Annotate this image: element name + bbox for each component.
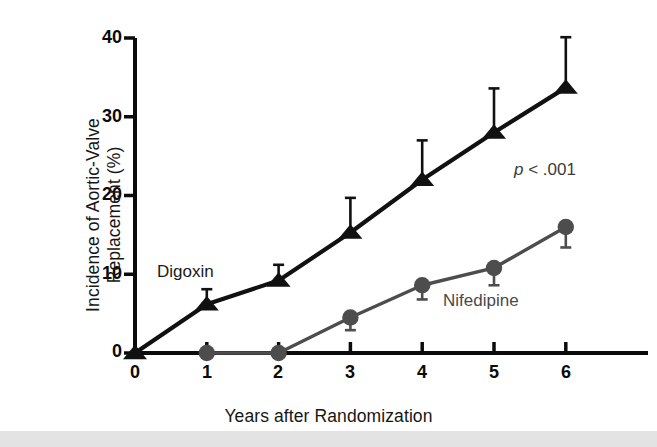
p-value-annotation: p < .001 bbox=[514, 160, 576, 180]
y-axis-title-container: Incidence of Aortic-Valve Replacement (%… bbox=[82, 50, 126, 380]
marker-circle-6 bbox=[558, 219, 574, 235]
x-tick-label-2: 2 bbox=[263, 362, 293, 383]
series-label-digoxin: Digoxin bbox=[157, 262, 214, 282]
x-tick-label-4: 4 bbox=[407, 362, 437, 383]
y-tick-label-40: 40 bbox=[78, 27, 122, 48]
p-value-rest: < .001 bbox=[523, 160, 575, 179]
series-label-nifedipine: Nifedipine bbox=[443, 291, 519, 311]
marker-circle-5 bbox=[486, 260, 502, 276]
x-tick-label-1: 1 bbox=[192, 362, 222, 383]
x-tick-label-5: 5 bbox=[479, 362, 509, 383]
chart-figure: 0 10 20 30 40 0 1 2 3 4 5 6 Years after … bbox=[0, 0, 657, 447]
bottom-gray-strip bbox=[0, 431, 657, 447]
marker-circle-1 bbox=[199, 345, 215, 361]
marker-triangle-6 bbox=[554, 79, 578, 94]
y-axis-title: Incidence of Aortic-Valve Replacement (%… bbox=[83, 65, 125, 365]
marker-circle-3 bbox=[342, 309, 358, 325]
marker-circle-2 bbox=[270, 345, 286, 361]
marker-circle-4 bbox=[414, 277, 430, 293]
x-tick-label-6: 6 bbox=[551, 362, 581, 383]
series-line-nifedipine bbox=[207, 227, 566, 353]
x-tick-label-3: 3 bbox=[335, 362, 365, 383]
x-axis-title: Years after Randomization bbox=[0, 406, 657, 427]
